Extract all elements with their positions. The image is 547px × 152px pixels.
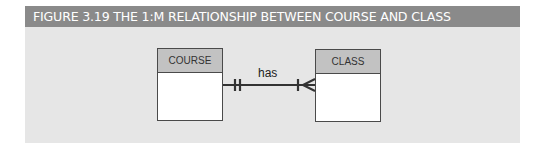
relationship-connector <box>0 0 547 152</box>
